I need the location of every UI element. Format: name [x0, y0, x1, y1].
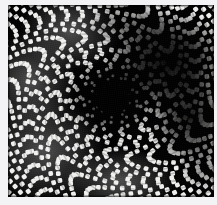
photographic-plate — [8, 5, 214, 197]
halftone-cell-grid — [8, 5, 214, 197]
image-canvas — [0, 0, 217, 205]
moire-cell-field — [8, 5, 214, 197]
